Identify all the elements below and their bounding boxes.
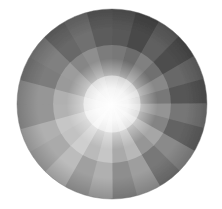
radial-wedge-disc [0,0,222,209]
figure-root [0,0,222,209]
rim-shading [17,9,207,199]
